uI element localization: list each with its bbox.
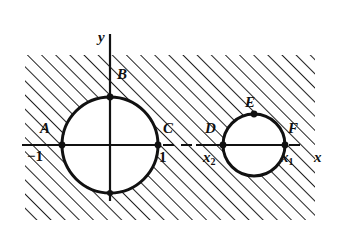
tick-label-one: 1 bbox=[159, 150, 167, 165]
point-D-marker bbox=[220, 142, 227, 149]
x-axis-label: x bbox=[314, 150, 322, 165]
point-label-B: B bbox=[117, 67, 127, 82]
point-B-marker bbox=[107, 94, 114, 101]
circle-bottom-marker bbox=[107, 190, 113, 196]
tick-label-x2-sub: 2 bbox=[211, 156, 216, 167]
tick-label-x1-base: x bbox=[281, 149, 289, 165]
point-label-C: C bbox=[163, 121, 173, 136]
tick-label-x1-sub: 1 bbox=[289, 156, 294, 167]
tick-label-x2: x2 bbox=[203, 150, 216, 167]
tick-label-x1: x1 bbox=[281, 150, 294, 167]
point-label-E: E bbox=[245, 95, 255, 110]
point-A-marker bbox=[59, 142, 66, 149]
point-label-F: F bbox=[288, 121, 298, 136]
point-F-marker bbox=[282, 142, 289, 149]
tick-label-x2-base: x bbox=[203, 149, 211, 165]
point-label-A: A bbox=[40, 121, 50, 136]
point-E-marker bbox=[251, 111, 258, 118]
hatched-region bbox=[25, 55, 315, 220]
y-axis-label: y bbox=[98, 30, 105, 45]
point-C-marker bbox=[155, 142, 162, 149]
tick-label-negative-one: −1 bbox=[27, 149, 43, 164]
figure-canvas: A B C D E F −1 1 x2 x1 y x bbox=[0, 0, 339, 242]
point-label-D: D bbox=[205, 121, 216, 136]
